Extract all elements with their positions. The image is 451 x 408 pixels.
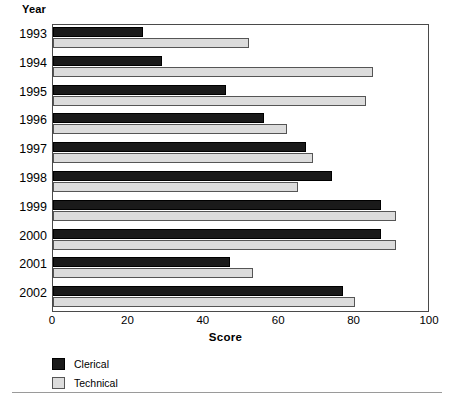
y-tick-label-1997: 1997	[1, 143, 47, 156]
y-tick-label-1996: 1996	[1, 114, 47, 127]
bar-group	[53, 255, 428, 284]
bar-clerical-2002	[53, 286, 343, 296]
bar-group	[53, 169, 428, 198]
bar-technical-1996	[53, 124, 287, 134]
x-tick-label-20: 20	[107, 314, 147, 326]
legend-label-technical: Technical	[74, 377, 118, 389]
legend-label-clerical: Clerical	[74, 358, 109, 370]
bar-clerical-1997	[53, 142, 306, 152]
x-tick-label-60: 60	[258, 314, 298, 326]
bar-group	[53, 140, 428, 169]
bar-chart: Year 19931994199519961997199819992000200…	[0, 0, 451, 408]
bar-technical-1994	[53, 67, 373, 77]
bar-clerical-1994	[53, 56, 162, 66]
bar-group	[53, 227, 428, 256]
y-tick-label-2000: 2000	[1, 230, 47, 243]
chart-legend: ClericalTechnical	[52, 355, 118, 393]
y-tick-label-1999: 1999	[1, 201, 47, 214]
y-axis-title: Year	[22, 3, 46, 15]
x-tick-label-0: 0	[32, 314, 72, 326]
bar-clerical-1995	[53, 85, 226, 95]
bar-clerical-2001	[53, 257, 230, 267]
bar-technical-1999	[53, 211, 396, 221]
bar-technical-2001	[53, 268, 253, 278]
bar-technical-2002	[53, 297, 355, 307]
x-tick-label-80: 80	[334, 314, 374, 326]
bar-technical-1998	[53, 182, 298, 192]
bar-group	[53, 284, 428, 313]
bar-clerical-1998	[53, 171, 332, 181]
y-tick-label-1995: 1995	[1, 86, 47, 99]
footer-divider	[12, 392, 442, 393]
legend-swatch-technical	[52, 377, 65, 389]
bar-clerical-2000	[53, 229, 381, 239]
y-tick-label-2001: 2001	[1, 258, 47, 271]
x-tick-label-100: 100	[409, 314, 449, 326]
legend-swatch-clerical	[52, 358, 65, 370]
bar-clerical-1993	[53, 27, 143, 37]
bar-group	[53, 198, 428, 227]
bar-clerical-1999	[53, 200, 381, 210]
bar-technical-1993	[53, 38, 249, 48]
plot-area	[52, 24, 429, 312]
bar-technical-2000	[53, 240, 396, 250]
bar-group	[53, 54, 428, 83]
x-tick-label-40: 40	[183, 314, 223, 326]
x-axis-title: Score	[0, 331, 451, 343]
legend-item-clerical: Clerical	[52, 355, 118, 372]
bar-technical-1997	[53, 153, 313, 163]
y-tick-label-1993: 1993	[1, 28, 47, 41]
y-tick-label-1998: 1998	[1, 172, 47, 185]
bar-group	[53, 111, 428, 140]
bar-clerical-1996	[53, 113, 264, 123]
legend-item-technical: Technical	[52, 374, 118, 391]
y-tick-label-2002: 2002	[1, 287, 47, 300]
y-tick-label-1994: 1994	[1, 57, 47, 70]
bar-group	[53, 25, 428, 54]
bar-group	[53, 83, 428, 112]
bar-technical-1995	[53, 96, 366, 106]
